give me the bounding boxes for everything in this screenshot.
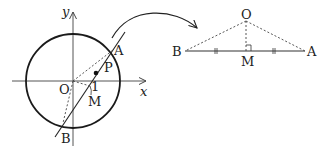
triangle-figure: O B A M [172,7,317,69]
unit-mark-label: 1 [91,79,99,94]
point-b-label: B [61,131,71,146]
triangle-m-label: M [241,54,254,69]
point-m-label: M [88,94,101,109]
x-axis-label: x [140,84,148,99]
transition-arrow [112,13,197,38]
dashed-segment-om [73,81,90,86]
triangle-o-label: O [241,7,252,22]
triangle-a-label: A [306,44,317,59]
right-angle-marker [246,45,251,51]
point-p-label: P [104,60,113,75]
coordinate-figure: y x O A B P 1 M [12,4,148,146]
y-axis-label: y [61,4,70,19]
origin-label: O [59,82,70,97]
point-a-label: A [113,43,124,58]
dashed-segment-oa-right [246,21,305,51]
triangle-b-label: B [172,44,182,59]
diagram-canvas: y x O A B P 1 M O B A M [0,0,324,147]
point-p-dot [94,71,99,76]
